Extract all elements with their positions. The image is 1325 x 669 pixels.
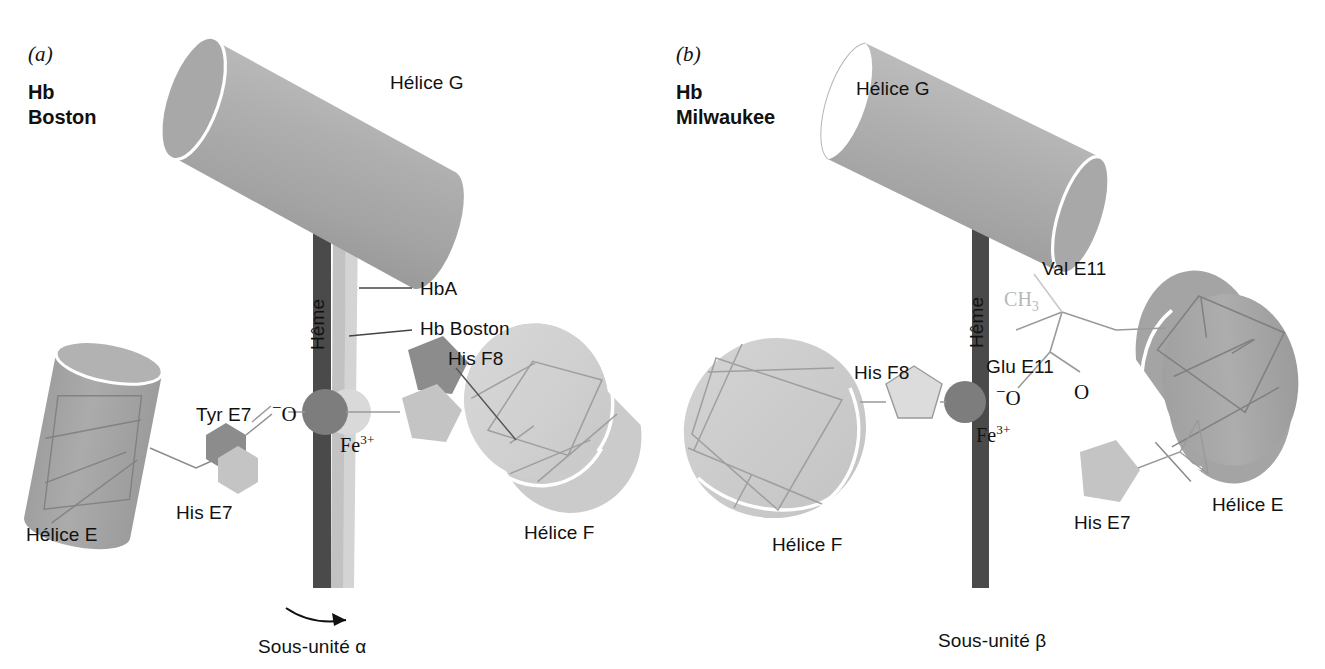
panel-a-label-heme: Hême <box>307 299 329 350</box>
panel-b-hb-milwaukee: (b) Hb Milwaukee Hélice G Hême His F8 Fe… <box>660 0 1325 669</box>
oxygen-charge-a: − <box>272 398 282 417</box>
iron-atom-a <box>302 389 348 435</box>
panel-b-letter: (b) <box>676 42 701 67</box>
panel-a-label-his-f8: His F8 <box>448 348 504 370</box>
panel-b-label-iron: Fe3+ <box>976 422 1010 447</box>
residue-his-f8-shifted-a <box>402 384 462 442</box>
leader-lines-a <box>349 288 412 336</box>
panel-a-label-iron: Fe3+ <box>340 432 374 457</box>
panel-a-label-his-e7: His E7 <box>176 502 233 524</box>
panel-b-label-helix-f: Hélice F <box>772 534 842 556</box>
panel-a-label-subunit: Sous-unité α <box>258 636 366 658</box>
panel-a-label-helix-g: Hélice G <box>390 72 464 94</box>
oxygen-anion-symbol-b: O <box>1006 386 1021 410</box>
panel-b-variant-name: Hb Milwaukee <box>676 80 775 130</box>
panel-b-label-val-e11: Val E11 <box>1042 258 1106 280</box>
panel-a-hb-boston: (a) Hb Boston Hélice G Hême HbA Hb Bosto… <box>0 0 660 669</box>
iron-symbol-a: Fe <box>340 434 360 456</box>
panel-a-label-hba: HbA <box>420 278 457 300</box>
helix-f-cylinder-a <box>454 310 651 526</box>
panel-a-label-oxygen: −O <box>272 398 297 427</box>
panel-a-artwork <box>0 0 660 669</box>
oxygen-symbol-a: O <box>282 402 297 426</box>
oxygen-charge-b: − <box>996 382 1006 401</box>
iron-charge-a: 3+ <box>360 432 374 447</box>
panel-b-label-his-f8: His F8 <box>854 362 910 384</box>
panel-a-letter: (a) <box>28 42 53 67</box>
methyl-symbol-b: CH <box>1004 288 1032 310</box>
helix-e-cylinder-b <box>1129 262 1307 491</box>
panel-b-label-helix-e: Hélice E <box>1212 494 1284 516</box>
methyl-subscript-b: 3 <box>1032 299 1039 314</box>
iron-atom-b <box>944 381 986 423</box>
panel-a-variant-name: Hb Boston <box>28 80 96 130</box>
residue-his-e7-b <box>1080 440 1140 502</box>
rotation-arrow-a <box>286 608 346 626</box>
panel-b-label-heme: Hême <box>966 297 988 348</box>
panel-b-label-subunit: Sous-unité β <box>938 630 1046 652</box>
helix-f-blob-b <box>684 338 866 518</box>
panel-b-label-methyl: CH3 <box>1004 288 1039 315</box>
panel-b-label-oxygen: O <box>1074 380 1089 405</box>
figure-root: (a) Hb Boston Hélice G Hême HbA Hb Bosto… <box>0 0 1325 669</box>
panel-b-label-glu-e11: Glu E11 <box>986 356 1054 378</box>
panel-a-label-helix-e: Hélice E <box>26 524 98 546</box>
panel-b-label-his-e7: His E7 <box>1074 512 1131 534</box>
helix-g-cylinder-a <box>133 29 492 296</box>
panel-a-label-helix-f: Hélice F <box>524 522 594 544</box>
panel-b-label-helix-g: Hélice G <box>856 78 930 100</box>
panel-a-label-hb-boston: Hb Boston <box>420 318 510 340</box>
panel-b-label-oxygen-anion: −O <box>996 382 1021 411</box>
helix-g-cylinder-b <box>798 37 1132 280</box>
iron-symbol-b: Fe <box>976 424 996 446</box>
iron-charge-b: 3+ <box>996 422 1010 437</box>
panel-a-label-tyr-e7: Tyr E7 <box>196 404 252 426</box>
